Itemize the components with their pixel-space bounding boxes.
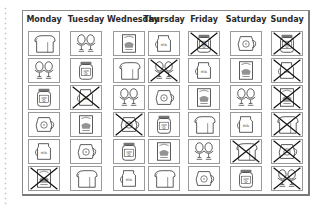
cereal-icon — [114, 32, 144, 55]
food-cell-juice[interactable] — [188, 166, 220, 191]
juice-icon — [231, 32, 261, 55]
svg-text:Milk: Milk — [161, 43, 168, 47]
food-cell-jam[interactable]: JAM — [28, 85, 60, 110]
eggs-icon — [71, 32, 101, 55]
cereal-icon — [189, 86, 219, 109]
cereal-icon — [149, 140, 179, 163]
food-cell-milk[interactable]: Milk — [230, 112, 262, 137]
juice-icon — [189, 167, 219, 190]
food-cell-milk-crossed[interactable]: Milk — [271, 58, 303, 83]
svg-text:JAM: JAM — [283, 42, 290, 46]
cereal-icon — [71, 113, 101, 136]
svg-text:Milk: Milk — [41, 151, 48, 155]
binding-holes — [4, 6, 7, 206]
day-header-friday: Friday — [182, 15, 226, 27]
juice-icon — [114, 113, 144, 136]
food-cell-milk[interactable]: Milk — [188, 58, 220, 83]
food-cell-jam[interactable]: JAM — [230, 166, 262, 191]
juice-icon — [29, 113, 59, 136]
breakfast-worksheet: MondayJAMMilkTuesdayJAMMilkWednesdayJAMM… — [22, 10, 310, 196]
svg-text:Milk: Milk — [201, 70, 208, 74]
svg-text:JAM: JAM — [242, 177, 249, 181]
svg-text:JAM: JAM — [40, 96, 47, 100]
milk-icon: Milk — [29, 140, 59, 163]
milk-icon: Milk — [272, 59, 302, 82]
food-cell-jam-crossed[interactable]: JAM — [271, 31, 303, 56]
food-cell-cereal[interactable] — [70, 112, 102, 137]
svg-text:Milk: Milk — [83, 97, 90, 101]
eggs-icon — [231, 86, 261, 109]
day-header-sunday: Sunday — [265, 15, 309, 27]
food-cell-milk[interactable]: Milk — [148, 31, 180, 56]
milk-icon: Milk — [189, 59, 219, 82]
food-cell-eggs[interactable] — [28, 58, 60, 83]
jam-icon: JAM — [149, 113, 179, 136]
food-cell-eggs[interactable] — [70, 31, 102, 56]
jam-icon: JAM — [29, 86, 59, 109]
food-cell-cereal-crossed[interactable] — [28, 166, 60, 191]
bread-icon — [71, 167, 101, 190]
food-cell-cereal[interactable] — [230, 58, 262, 83]
food-cell-cereal[interactable] — [113, 31, 145, 56]
food-cell-bread[interactable] — [70, 166, 102, 191]
food-cell-cereal[interactable] — [148, 139, 180, 164]
food-cell-bread[interactable] — [28, 31, 60, 56]
food-cell-juice-crossed[interactable] — [113, 112, 145, 137]
food-cell-cereal-crossed[interactable] — [271, 85, 303, 110]
juice-icon — [71, 140, 101, 163]
jam-icon: JAM — [114, 140, 144, 163]
jam-icon: JAM — [189, 32, 219, 55]
bread-icon — [149, 167, 179, 190]
bread-icon — [114, 59, 144, 82]
day-header-thursday: Thursday — [142, 15, 186, 27]
bread-icon — [29, 32, 59, 55]
food-cell-cereal[interactable] — [188, 85, 220, 110]
day-header-monday: Monday — [22, 15, 66, 27]
jam-icon: JAM — [272, 32, 302, 55]
eggs-icon — [29, 59, 59, 82]
food-cell-eggs-crossed[interactable] — [271, 166, 303, 191]
eggs-icon — [149, 59, 179, 82]
juice-icon — [272, 140, 302, 163]
food-cell-jam-crossed[interactable]: JAM — [188, 31, 220, 56]
food-cell-bread[interactable] — [113, 58, 145, 83]
jam-icon: JAM — [71, 59, 101, 82]
svg-text:JAM: JAM — [160, 123, 167, 127]
food-cell-bread[interactable] — [148, 166, 180, 191]
svg-text:Milk: Milk — [126, 178, 133, 182]
food-cell-jam[interactable]: JAM — [113, 139, 145, 164]
food-cell-milk-crossed[interactable]: Milk — [70, 85, 102, 110]
food-cell-juice[interactable] — [28, 112, 60, 137]
bread-icon — [231, 140, 261, 163]
jam-icon: JAM — [231, 167, 261, 190]
food-cell-milk[interactable]: Milk — [113, 166, 145, 191]
eggs-icon — [189, 140, 219, 163]
food-cell-juice[interactable] — [70, 139, 102, 164]
svg-text:JAM: JAM — [200, 42, 207, 46]
food-cell-eggs[interactable] — [230, 85, 262, 110]
food-cell-jam[interactable]: JAM — [70, 58, 102, 83]
food-cell-eggs-crossed[interactable] — [148, 58, 180, 83]
food-cell-juice[interactable] — [148, 85, 180, 110]
food-cell-jam[interactable]: JAM — [148, 112, 180, 137]
milk-icon: Milk — [149, 32, 179, 55]
milk-icon: Milk — [71, 86, 101, 109]
juice-icon — [149, 86, 179, 109]
food-cell-juice-crossed[interactable] — [271, 139, 303, 164]
food-cell-bread-crossed[interactable] — [230, 139, 262, 164]
food-cell-eggs[interactable] — [188, 139, 220, 164]
food-cell-juice[interactable] — [230, 31, 262, 56]
food-cell-bread-crossed[interactable] — [271, 112, 303, 137]
food-cell-bread[interactable] — [188, 112, 220, 137]
food-cell-eggs[interactable] — [113, 85, 145, 110]
food-cell-milk[interactable]: Milk — [28, 139, 60, 164]
cereal-icon — [231, 59, 261, 82]
eggs-icon — [114, 86, 144, 109]
svg-text:JAM: JAM — [125, 150, 132, 154]
svg-text:Milk: Milk — [243, 124, 250, 128]
bread-icon — [189, 113, 219, 136]
milk-icon: Milk — [114, 167, 144, 190]
svg-text:JAM: JAM — [82, 69, 89, 73]
svg-text:Milk: Milk — [284, 70, 291, 74]
cereal-icon — [272, 86, 302, 109]
